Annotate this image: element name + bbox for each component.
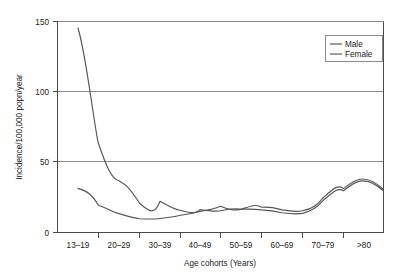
y-axis-title: Incidence/100,000 popn/year bbox=[15, 74, 24, 180]
y-tick-label-0: 0 bbox=[44, 229, 49, 238]
x-tick-label-4: 50–59 bbox=[230, 241, 253, 250]
chart-svg: 150 100 50 0 13–19 20–29 30–39 40–49 50–… bbox=[0, 0, 412, 280]
x-axis-title: Age cohorts (Years) bbox=[184, 259, 256, 268]
x-tick-label-7: >80 bbox=[357, 241, 371, 250]
x-tick-label-5: 60–69 bbox=[271, 241, 294, 250]
y-tick-label-100: 100 bbox=[35, 88, 49, 97]
x-tick-label-1: 20–29 bbox=[108, 241, 131, 250]
y-tick-label-50: 50 bbox=[40, 158, 50, 167]
x-tick-label-6: 70–79 bbox=[312, 241, 335, 250]
incidence-by-age-cohort-chart: 150 100 50 0 13–19 20–29 30–39 40–49 50–… bbox=[0, 0, 412, 280]
legend: Male Female bbox=[326, 36, 383, 62]
x-tick-label-2: 30–39 bbox=[149, 241, 172, 250]
x-tick-label-3: 40–49 bbox=[189, 241, 212, 250]
x-tick-label-0: 13–19 bbox=[67, 241, 90, 250]
legend-label-male: Male bbox=[345, 40, 363, 49]
legend-label-female: Female bbox=[345, 50, 373, 59]
y-tick-label-150: 150 bbox=[35, 18, 49, 27]
